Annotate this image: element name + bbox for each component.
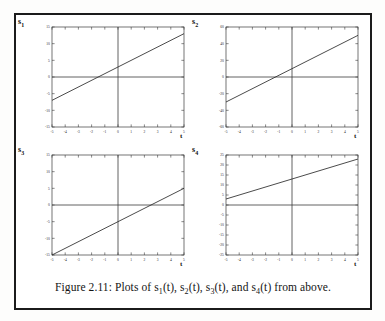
y-tick-label: 25 <box>220 153 224 157</box>
x-tick-label: -5 <box>51 258 54 262</box>
y-tick-label: 5 <box>48 59 50 63</box>
plot-panel-s4: s4 t -5-4-3-2-1012345-25-20-15-10-505101… <box>202 149 364 273</box>
y-axis-label-s4: s4 <box>192 146 198 156</box>
plot-svg-s1: -5-4-3-2-1012345-15-10-5051015 <box>28 21 190 145</box>
x-tick-label: -4 <box>64 130 67 134</box>
x-tick-label: 4 <box>344 130 346 134</box>
figure-border-box: s1 t -5-4-3-2-1012345-15-10-5051015 s2 t… <box>14 13 372 310</box>
x-tick-label: -1 <box>103 258 106 262</box>
y-tick-label: -15 <box>45 253 50 257</box>
y-tick-label: -15 <box>45 125 50 129</box>
x-axis-label-t-s4: t <box>354 261 356 268</box>
x-tick-label: -5 <box>51 130 54 134</box>
x-tick-label: 4 <box>344 258 346 262</box>
x-tick-label: -1 <box>103 130 106 134</box>
x-tick-label: 2 <box>318 258 320 262</box>
y-tick-label: 0 <box>48 75 50 79</box>
x-tick-label: 5 <box>183 130 185 134</box>
x-tick-label: 3 <box>157 130 159 134</box>
x-tick-label: -3 <box>77 130 80 134</box>
x-tick-label: -2 <box>264 130 267 134</box>
caption-divider <box>16 273 370 274</box>
y-axis-label-s2: s2 <box>192 18 198 28</box>
x-axis-label-t-s3: t <box>180 261 182 268</box>
y-tick-label: 15 <box>46 25 50 29</box>
caption-symbol-subscript: 3 <box>210 287 214 296</box>
y-tick-label: 20 <box>220 163 224 167</box>
x-tick-label: -4 <box>238 258 241 262</box>
x-tick-label: -3 <box>77 258 80 262</box>
y-tick-label: 0 <box>222 203 224 207</box>
x-tick-label: -4 <box>64 258 67 262</box>
x-tick-label: -1 <box>277 258 280 262</box>
y-axis-label-s1: s1 <box>18 18 24 28</box>
y-tick-label: 0 <box>222 75 224 79</box>
x-axis-label-t-s1: t <box>180 133 182 140</box>
y-tick-label: 0 <box>48 203 50 207</box>
y-tick-label: 20 <box>220 59 224 63</box>
figure-caption: Figure 2.11: Plots of s1(t), s2(t), s3(t… <box>16 281 370 296</box>
x-tick-label: -5 <box>225 130 228 134</box>
y-tick-label: -5 <box>47 220 50 224</box>
y-tick-label: -20 <box>219 243 224 247</box>
plot-panel-s1: s1 t -5-4-3-2-1012345-15-10-5051015 <box>28 21 190 145</box>
y-tick-label: -40 <box>219 109 224 113</box>
caption-symbol-subscript: 4 <box>256 287 260 296</box>
y-tick-label: 5 <box>48 187 50 191</box>
x-tick-label: 3 <box>157 258 159 262</box>
x-tick-label: 2 <box>318 130 320 134</box>
x-tick-label: -2 <box>90 130 93 134</box>
caption-symbol-subscript: 2 <box>185 287 189 296</box>
x-tick-label: -3 <box>251 130 254 134</box>
x-tick-label: 2 <box>144 258 146 262</box>
x-tick-label: 0 <box>291 130 293 134</box>
x-tick-label: 0 <box>117 258 119 262</box>
x-tick-label: -3 <box>251 258 254 262</box>
caption-symbol-subscript: 1 <box>159 287 163 296</box>
x-tick-label: -2 <box>90 258 93 262</box>
plot-svg-s4: -5-4-3-2-1012345-25-20-15-10-50510152025 <box>202 149 364 273</box>
y-tick-label: -5 <box>47 92 50 96</box>
y-tick-label: 15 <box>46 153 50 157</box>
x-tick-label: 5 <box>357 130 359 134</box>
plot-panel-s2: s2 t -5-4-3-2-1012345-60-40-200204060 <box>202 21 364 145</box>
x-tick-label: -2 <box>264 258 267 262</box>
y-tick-label: 15 <box>220 173 224 177</box>
x-tick-label: 0 <box>291 258 293 262</box>
x-tick-label: -1 <box>277 130 280 134</box>
x-tick-label: 2 <box>144 130 146 134</box>
y-tick-label: -10 <box>219 223 224 227</box>
y-tick-label: 5 <box>222 193 224 197</box>
y-tick-label: 10 <box>46 42 50 46</box>
x-tick-label: 5 <box>357 258 359 262</box>
plot-grid: s1 t -5-4-3-2-1012345-15-10-5051015 s2 t… <box>16 15 370 273</box>
figure-page: s1 t -5-4-3-2-1012345-15-10-5051015 s2 t… <box>0 0 385 321</box>
y-axis-label-s3: s3 <box>18 146 24 156</box>
plot-svg-s2: -5-4-3-2-1012345-60-40-200204060 <box>202 21 364 145</box>
y-tick-label: -60 <box>219 125 224 129</box>
x-tick-label: -5 <box>225 258 228 262</box>
y-tick-label: 40 <box>220 42 224 46</box>
y-tick-label: -25 <box>219 253 224 257</box>
plot-svg-s3: -5-4-3-2-1012345-15-10-5051015 <box>28 149 190 273</box>
x-tick-label: 4 <box>170 130 172 134</box>
y-tick-label: 60 <box>220 25 224 29</box>
x-tick-label: 0 <box>117 130 119 134</box>
x-tick-label: 1 <box>304 130 306 134</box>
x-tick-label: 4 <box>170 258 172 262</box>
plot-panel-s3: s3 t -5-4-3-2-1012345-15-10-5051015 <box>28 149 190 273</box>
x-tick-label: 1 <box>304 258 306 262</box>
y-tick-label: -10 <box>45 237 50 241</box>
y-tick-label: -15 <box>219 233 224 237</box>
x-tick-label: 3 <box>331 258 333 262</box>
x-tick-label: 1 <box>130 130 132 134</box>
y-tick-label: 10 <box>220 183 224 187</box>
x-tick-label: 5 <box>183 258 185 262</box>
y-tick-label: -5 <box>221 213 224 217</box>
y-tick-label: -20 <box>219 92 224 96</box>
x-tick-label: -4 <box>238 130 241 134</box>
y-tick-label: 10 <box>46 170 50 174</box>
y-tick-label: -10 <box>45 109 50 113</box>
x-tick-label: 1 <box>130 258 132 262</box>
x-axis-label-t-s2: t <box>354 133 356 140</box>
